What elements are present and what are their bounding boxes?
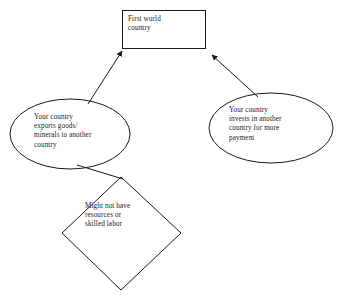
node-label-first-world-country: First world country (128, 15, 202, 33)
diagram-canvas: First world country Your country exports… (0, 0, 348, 296)
node-label-might-not-have: Might not have resources or skilled labo… (85, 202, 173, 230)
connector-exports-to-first-world (88, 51, 122, 104)
node-label-invests-in-another: Your country invests in another country … (229, 106, 325, 143)
connector-invests-to-first-world (212, 55, 258, 97)
node-diamond-might-not-have[interactable] (62, 177, 181, 290)
connector-exports-to-might-not-have (77, 165, 123, 179)
node-label-exports-goods: Your country exports goods/ minerals to … (34, 113, 126, 150)
